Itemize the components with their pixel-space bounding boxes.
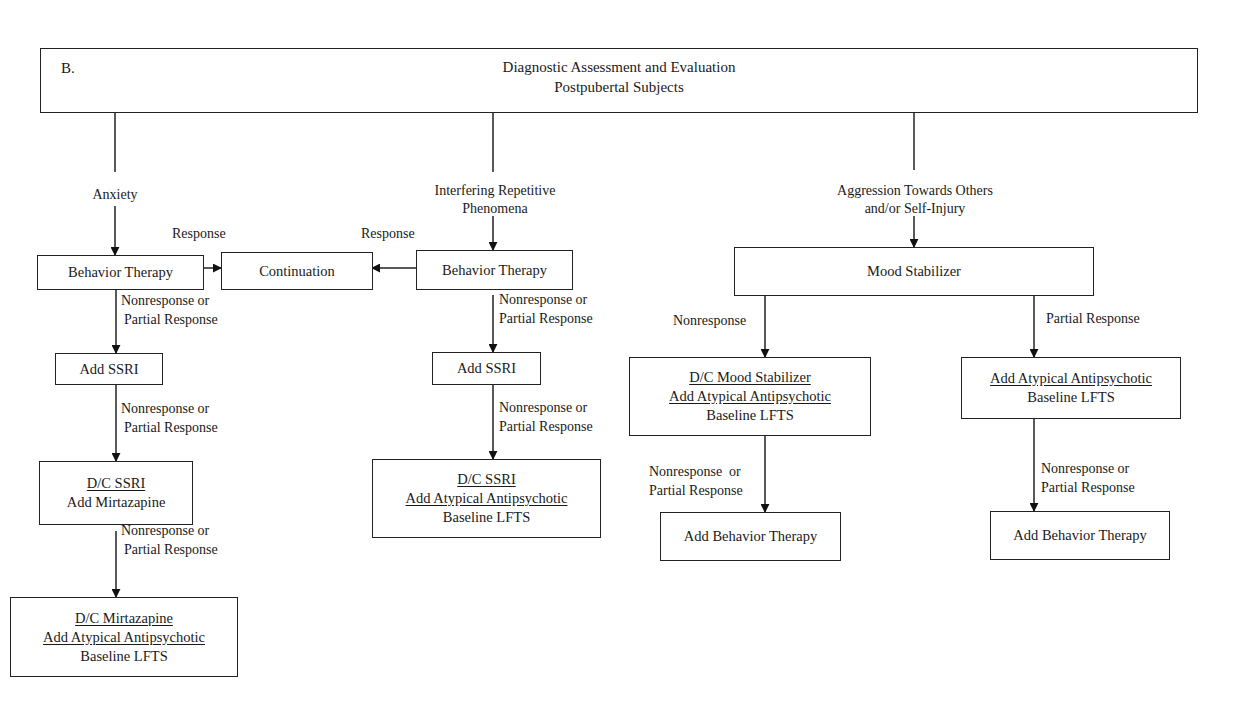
anxiety-label: Anxiety (75, 185, 155, 204)
header-title-line1: Diagnostic Assessment and Evaluation (41, 57, 1197, 77)
anxiety-edge2-line2: Partial Response (121, 418, 218, 437)
repetitive-dc-ssri-box: D/C SSRI Add Atypical Antipsychotic Base… (372, 459, 601, 538)
anxiety-edge3-line2: Partial Response (121, 540, 218, 559)
anxiety-baseline-lfts-text: Baseline LFTS (80, 647, 167, 666)
anxiety-dc-ssri-box: D/C SSRI Add Mirtazapine (39, 461, 193, 525)
aggression-left-add-behavior-therapy-text: Add Behavior Therapy (684, 527, 817, 546)
anxiety-behavior-therapy-text: Behavior Therapy (68, 263, 173, 282)
repetitive-add-antipsychotic-text: Add Atypical Antipsychotic (406, 489, 568, 508)
anxiety-dc-ssri-text: D/C SSRI (87, 474, 145, 493)
repetitive-edge1-line1: Nonresponse or (499, 290, 593, 309)
aggression-left-add-antipsychotic-text: Add Atypical Antipsychotic (669, 387, 831, 406)
aggression-left-edge1-label: Nonresponse (673, 311, 746, 330)
repetitive-edge2-label: Nonresponse or Partial Response (499, 398, 593, 436)
anxiety-add-mirtazapine-text: Add Mirtazapine (67, 493, 166, 512)
aggression-right-add-behavior-therapy-box: Add Behavior Therapy (990, 511, 1170, 560)
aggression-label: Aggression Towards Others and/or Self-In… (820, 181, 1010, 218)
repetitive-label-line2: Phenomena (410, 199, 580, 218)
anxiety-behavior-therapy-box: Behavior Therapy (37, 255, 204, 290)
aggression-left-edge2-line2: Partial Response (649, 481, 743, 500)
aggression-label-line1: Aggression Towards Others (820, 181, 1010, 200)
repetitive-edge2-line2: Partial Response (499, 417, 593, 436)
repetitive-add-ssri-box: Add SSRI (432, 352, 541, 385)
anxiety-edge2-line1: Nonresponse or (121, 399, 218, 418)
aggression-right-edge1-label: Partial Response (1046, 309, 1140, 328)
aggression-label-line2: and/or Self-Injury (820, 199, 1010, 218)
repetitive-edge1-line2: Partial Response (499, 309, 593, 328)
anxiety-edge3-label: Nonresponse or Partial Response (121, 521, 218, 559)
aggression-left-baseline-lfts-text: Baseline LFTS (706, 406, 793, 425)
repetitive-edge2-line1: Nonresponse or (499, 398, 593, 417)
repetitive-behavior-therapy-text: Behavior Therapy (442, 261, 547, 280)
header-title: Diagnostic Assessment and Evaluation Pos… (41, 57, 1197, 97)
anxiety-edge2-label: Nonresponse or Partial Response (121, 399, 218, 437)
continuation-box: Continuation (221, 252, 373, 290)
aggression-right-baseline-lfts-text: Baseline LFTS (1027, 388, 1114, 407)
dc-mood-stabilizer-text: D/C Mood Stabilizer (689, 368, 811, 387)
header-title-line2: Postpubertal Subjects (41, 77, 1197, 97)
anxiety-add-antipsychotic-text: Add Atypical Antipsychotic (43, 628, 205, 647)
aggression-left-edge2-line1: Nonresponse or (649, 462, 743, 481)
response-label-left: Response (172, 224, 226, 243)
anxiety-edge3-line1: Nonresponse or (121, 521, 218, 540)
anxiety-edge1-line2: Partial Response (121, 310, 218, 329)
mood-stabilizer-text: Mood Stabilizer (867, 262, 961, 281)
mood-stabilizer-box: Mood Stabilizer (734, 247, 1094, 296)
aggression-left-add-behavior-therapy-box: Add Behavior Therapy (660, 512, 841, 561)
anxiety-dc-mirtazapine-text: D/C Mirtazapine (75, 609, 173, 628)
repetitive-baseline-lfts-text: Baseline LFTS (443, 508, 530, 527)
aggression-right-antipsychotic-box: Add Atypical Antipsychotic Baseline LFTS (961, 357, 1181, 419)
anxiety-add-ssri-box: Add SSRI (55, 353, 163, 385)
anxiety-edge1-line1: Nonresponse or (121, 291, 218, 310)
dc-mood-stabilizer-box: D/C Mood Stabilizer Add Atypical Antipsy… (629, 357, 871, 436)
header-box: B. Diagnostic Assessment and Evaluation … (40, 48, 1198, 113)
continuation-text: Continuation (259, 262, 335, 281)
aggression-right-edge2-line2: Partial Response (1041, 478, 1135, 497)
aggression-right-edge2-label: Nonresponse or Partial Response (1041, 459, 1135, 497)
anxiety-edge1-label: Nonresponse or Partial Response (121, 291, 218, 329)
aggression-right-add-behavior-therapy-text: Add Behavior Therapy (1013, 526, 1146, 545)
repetitive-edge1-label: Nonresponse or Partial Response (499, 290, 593, 328)
repetitive-label-line1: Interfering Repetitive (410, 181, 580, 200)
response-label-right: Response (361, 224, 415, 243)
anxiety-add-ssri-text: Add SSRI (79, 360, 138, 379)
aggression-left-edge2-label: Nonresponse or Partial Response (649, 462, 743, 500)
repetitive-behavior-therapy-box: Behavior Therapy (416, 250, 573, 290)
repetitive-label: Interfering Repetitive Phenomena (410, 181, 580, 218)
aggression-right-add-antipsychotic-text: Add Atypical Antipsychotic (990, 369, 1152, 388)
aggression-right-edge2-line1: Nonresponse or (1041, 459, 1135, 478)
repetitive-add-ssri-text: Add SSRI (457, 359, 516, 378)
anxiety-dc-mirtazapine-box: D/C Mirtazapine Add Atypical Antipsychot… (10, 597, 238, 677)
repetitive-dc-ssri-text: D/C SSRI (457, 470, 515, 489)
